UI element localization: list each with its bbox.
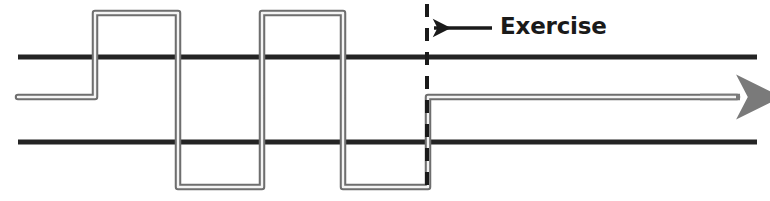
signal-outline: [18, 13, 737, 187]
exercise-annotation-label: Exercise: [500, 13, 607, 39]
waveform-canvas: [0, 0, 770, 201]
waveform-figure: Exercise: [0, 0, 770, 201]
signal-waveform: [18, 13, 740, 187]
